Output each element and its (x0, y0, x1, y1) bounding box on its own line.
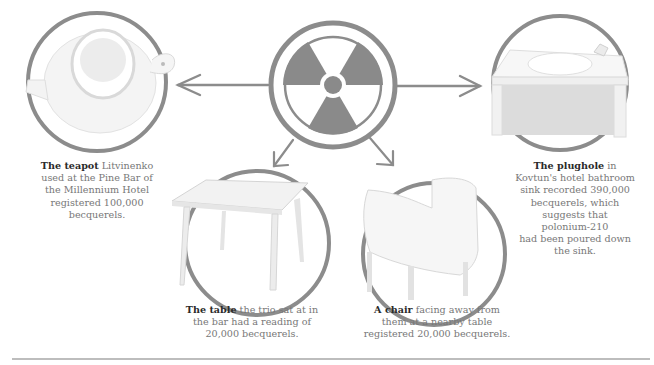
caption-teapot-line: Litvinenko (102, 160, 153, 171)
caption-teapot-line: registered 100,000 (50, 197, 143, 208)
caption-plughole-line: sink recorded 390,000 (520, 184, 630, 195)
caption-plughole-line: had been poured down (519, 233, 631, 244)
caption-plughole: The plughole in Kovtun's hotel bathroom … (505, 160, 645, 258)
caption-teapot-line: becquerels. (69, 209, 126, 220)
arrow-to-chair (370, 138, 393, 165)
caption-chair-title: A chair (374, 304, 413, 315)
caption-plughole-line: suggests that (542, 209, 607, 220)
plughole-sink-illustration (492, 16, 628, 150)
caption-teapot-line: the Millennium Hotel (45, 184, 149, 195)
caption-table: The table the trio sat at in the bar had… (172, 304, 332, 341)
caption-plughole-line: the sink. (554, 245, 596, 256)
arrow-to-plughole (397, 76, 480, 96)
caption-chair-line: registered 20,000 becquerels. (364, 328, 511, 339)
caption-teapot-line: used at the Pine Bar of (41, 172, 153, 183)
caption-plughole-line: becquerels, which (531, 197, 620, 208)
teapot-illustration (26, 13, 175, 151)
chair-illustration (363, 178, 505, 325)
arrow-to-teapot (178, 75, 268, 95)
caption-teapot: The teapot Litvinenko used at the Pine B… (28, 160, 166, 221)
caption-chair: A chair facing away from them at a nearb… (357, 304, 517, 341)
caption-table-title: The table (186, 304, 237, 315)
arrow-to-table (274, 140, 293, 166)
bottom-divider (12, 358, 650, 360)
caption-plughole-line: polonium-210 (542, 221, 609, 232)
caption-plughole-title: The plughole (533, 160, 604, 171)
table-illustration (172, 171, 329, 315)
caption-teapot-title: The teapot (41, 160, 99, 171)
caption-table-line: the bar had a reading of (193, 316, 311, 327)
caption-chair-line: them at a nearby table (382, 316, 493, 327)
caption-table-line: 20,000 becquerels. (205, 328, 298, 339)
caption-chair-line: facing away from (416, 304, 500, 315)
caption-plughole-line: in (607, 160, 616, 171)
caption-table-line: the trio sat at in (240, 304, 319, 315)
caption-plughole-line: Kovtun's hotel bathroom (515, 172, 635, 183)
radiation-icon (271, 23, 395, 147)
